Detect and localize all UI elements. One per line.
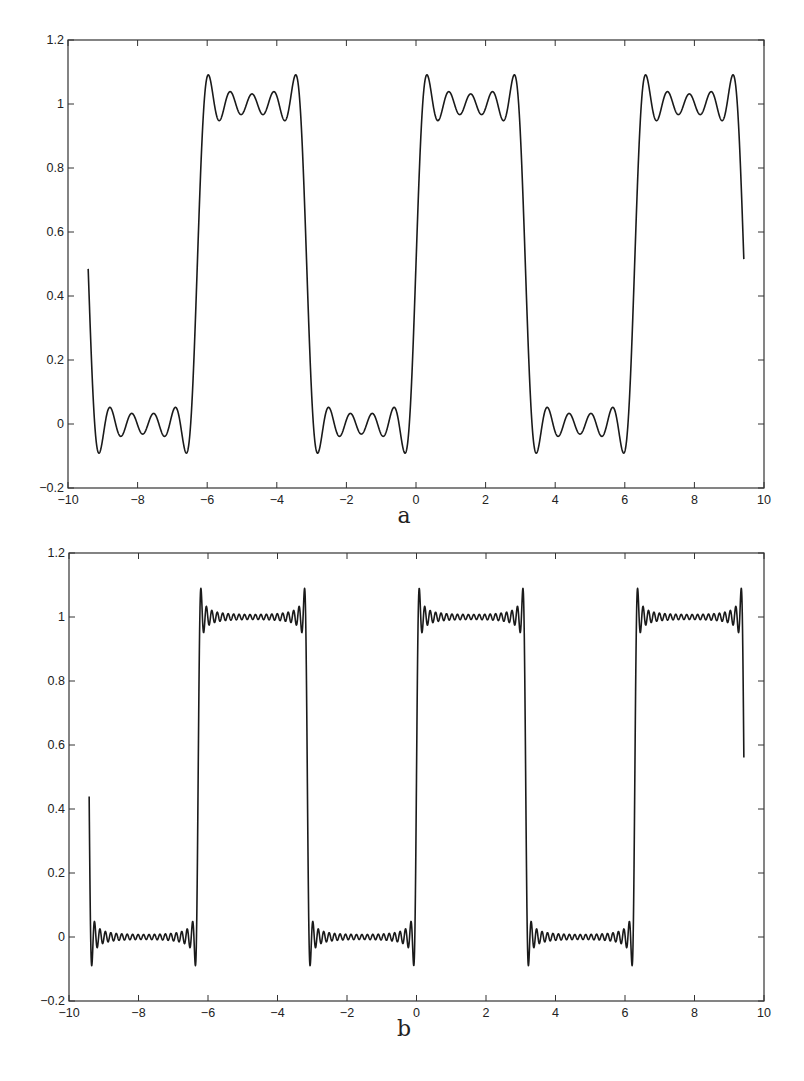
caption-b: b	[397, 1016, 411, 1041]
y-tick-label: 0.4	[48, 802, 65, 816]
x-tick-label: 0	[413, 1006, 420, 1020]
x-tick-label: 4	[552, 1006, 559, 1020]
y-tick-label: −0.2	[40, 994, 65, 1008]
y-tick-label: 1.2	[48, 546, 65, 560]
x-tick-label: 10	[757, 1006, 771, 1020]
y-tick-label: 0.8	[48, 674, 65, 688]
x-tick-label: 2	[483, 1006, 490, 1020]
x-tick-label: −6	[201, 1006, 215, 1020]
x-tick-label: −4	[270, 1006, 284, 1020]
x-tick-label: −10	[58, 1006, 79, 1020]
y-tick-label: 1	[58, 610, 65, 624]
x-tick-label: 6	[622, 1006, 629, 1020]
figure-b: −10−8−6−4−20246810−0.200.20.40.60.811.2 …	[0, 0, 804, 1081]
x-tick-label: 8	[691, 1006, 698, 1020]
x-tick-label: −8	[131, 1006, 145, 1020]
y-tick-label: 0.6	[48, 738, 65, 752]
chart-b-plot: −10−8−6−4−20246810−0.200.20.40.60.811.2	[0, 0, 804, 1081]
y-tick-label: 0.2	[48, 866, 65, 880]
x-tick-label: −2	[340, 1006, 354, 1020]
series-line	[89, 588, 744, 965]
y-tick-label: 0	[58, 930, 65, 944]
